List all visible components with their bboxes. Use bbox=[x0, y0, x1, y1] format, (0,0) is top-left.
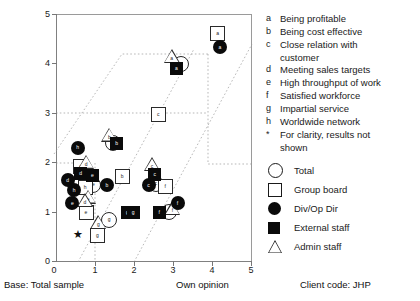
key-item-text: Satisfied workforce bbox=[280, 90, 360, 102]
y-tick-label-5: 5 bbox=[34, 10, 50, 19]
key-item-text: Worldwide network bbox=[280, 116, 360, 128]
key-item: *For clarity, results not bbox=[266, 129, 416, 141]
square-filled-icon bbox=[268, 222, 294, 234]
not-shown-star-icon: ★ bbox=[73, 229, 83, 240]
data-point-external-staff[interactable]: a bbox=[170, 62, 183, 75]
key-item-letter: d bbox=[266, 64, 280, 76]
y-tick-4 bbox=[52, 63, 57, 64]
key-item: hWorldwide network bbox=[266, 116, 416, 128]
data-point-div-op-dir[interactable]: e bbox=[65, 196, 79, 210]
key-item-letter: * bbox=[266, 129, 280, 141]
legend-item-label: Admin staff bbox=[294, 241, 341, 252]
key-item-text: For clarity, results not bbox=[280, 129, 370, 141]
key-item: bBeing cost effective bbox=[266, 26, 416, 38]
x-tick-label-3: 3 bbox=[165, 266, 181, 275]
key-item-text: Close relation with bbox=[280, 39, 358, 51]
key-item: eHigh throughput of work bbox=[266, 77, 416, 89]
y-tick-label-3: 3 bbox=[34, 109, 50, 118]
data-point-admin-staff[interactable]: g bbox=[90, 215, 106, 229]
series-legend: TotalGroup boardDiv/Op DirExternal staff… bbox=[268, 161, 418, 256]
y-axis-line bbox=[56, 14, 57, 262]
key-item-letter: h bbox=[266, 116, 280, 128]
plot-area: 0 1 2 3 4 5 0 1 2 3 4 5 abdecgfacbfdhega… bbox=[56, 14, 252, 262]
data-point-admin-staff[interactable]: d bbox=[77, 193, 93, 207]
key-item-letter: c bbox=[266, 39, 280, 51]
y-tick-3 bbox=[52, 113, 57, 114]
key-item-text: High throughput of work bbox=[280, 77, 381, 89]
key-item: fSatisfied workforce bbox=[266, 90, 416, 102]
key-item: dMeeting sales targets bbox=[266, 64, 416, 76]
plot-frame-right bbox=[251, 14, 252, 262]
key-item-text-continued: customer bbox=[280, 52, 416, 64]
circle-outline-icon bbox=[268, 163, 294, 178]
base-caption: Base: Total sample bbox=[4, 279, 84, 290]
square-outline-icon bbox=[268, 183, 294, 197]
y-tick-label-4: 4 bbox=[34, 59, 50, 68]
data-point-group-board[interactable]: c bbox=[151, 107, 166, 122]
y-tick-label-0: 0 bbox=[34, 257, 50, 266]
data-point-div-op-dir[interactable]: a bbox=[213, 40, 227, 54]
key-item-letter: f bbox=[266, 90, 280, 102]
legend-item-label: Group board bbox=[294, 184, 347, 195]
key-item: aBeing profitable bbox=[266, 13, 416, 25]
key-item-text: Meeting sales targets bbox=[280, 64, 370, 76]
y-tick-label-2: 2 bbox=[34, 158, 50, 167]
data-point-external-staff[interactable]: f bbox=[153, 206, 166, 219]
data-point-div-op-dir[interactable]: b bbox=[100, 178, 114, 192]
data-point-group-board[interactable]: a bbox=[210, 26, 225, 41]
y-tick-label-1: 1 bbox=[34, 208, 50, 217]
plot-frame-top bbox=[56, 14, 252, 15]
x-tick-label-0: 0 bbox=[46, 266, 62, 275]
key-item-text: Being cost effective bbox=[280, 26, 362, 38]
x-tick-label-2: 2 bbox=[126, 266, 142, 275]
legend-item[interactable]: Div/Op Dir bbox=[268, 199, 418, 218]
data-point-div-op-dir[interactable]: f bbox=[171, 196, 185, 210]
legend-item[interactable]: External staff bbox=[268, 218, 418, 237]
triangle-outline-icon bbox=[268, 240, 294, 253]
data-point-group-board[interactable]: g bbox=[90, 228, 105, 243]
key-item-letter: b bbox=[266, 26, 280, 38]
legend-item[interactable]: Group board bbox=[268, 180, 418, 199]
key-item-text: Impartial service bbox=[280, 103, 349, 115]
legend-item[interactable]: Admin staff bbox=[268, 237, 418, 256]
key-item-letter: e bbox=[266, 77, 280, 89]
y-tick-0 bbox=[52, 261, 57, 262]
data-point-group-board[interactable]: f bbox=[158, 179, 173, 194]
x-axis-line bbox=[56, 261, 252, 262]
y-tick-1 bbox=[52, 212, 57, 213]
data-point-external-staff[interactable]: e bbox=[86, 169, 99, 182]
data-point-admin-staff[interactable]: a bbox=[164, 49, 180, 63]
data-point-external-staff[interactable]: g bbox=[127, 206, 140, 219]
key-item-letter: a bbox=[266, 13, 280, 25]
y-tick-5 bbox=[52, 14, 57, 15]
key-item-letter: g bbox=[266, 103, 280, 115]
key-item: gImpartial service bbox=[266, 103, 416, 115]
attribute-key-list: aBeing profitablebBeing cost effectivecC… bbox=[266, 13, 416, 153]
data-point-div-op-dir[interactable]: h bbox=[71, 141, 85, 155]
x-tick-label-4: 4 bbox=[204, 266, 220, 275]
legend-item-label: Total bbox=[294, 165, 314, 176]
circle-filled-icon bbox=[268, 202, 294, 215]
data-point-external-staff[interactable]: c bbox=[148, 168, 161, 181]
data-point-group-board[interactable]: b bbox=[115, 169, 130, 184]
y-tick-2 bbox=[52, 162, 57, 163]
data-point-external-staff[interactable]: b bbox=[110, 137, 123, 150]
scatter-chart-page: 0 1 2 3 4 5 0 1 2 3 4 5 abdecgfacbfdhega… bbox=[0, 0, 420, 301]
x-axis-title: Own opinion bbox=[176, 279, 229, 290]
legend-item[interactable]: Total bbox=[268, 161, 418, 180]
legend-item-label: Div/Op Dir bbox=[294, 203, 338, 214]
x-tick-label-1: 1 bbox=[87, 266, 103, 275]
key-item-text-continued: shown bbox=[280, 142, 416, 154]
key-item: cClose relation with bbox=[266, 39, 416, 51]
key-item-text: Being profitable bbox=[280, 13, 346, 25]
data-point-div-op-dir[interactable]: h bbox=[67, 183, 81, 197]
client-code-label: Client code: JHP bbox=[300, 279, 371, 290]
x-tick-label-5: 5 bbox=[243, 266, 259, 275]
legend-item-label: External staff bbox=[294, 222, 349, 233]
